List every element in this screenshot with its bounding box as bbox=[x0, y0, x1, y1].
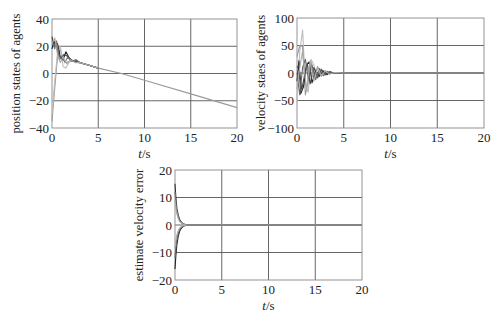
series-line-agent5 bbox=[52, 41, 98, 68]
velocity-states-plot: 05101520−100−50050100t/svelocity staes o… bbox=[254, 11, 491, 162]
position-states-plot: 05101520−40−2002040t/sposition states of… bbox=[9, 12, 244, 162]
x-tick-label: 20 bbox=[231, 130, 244, 145]
y-tick-label: 20 bbox=[36, 39, 49, 54]
x-tick-label: 5 bbox=[219, 282, 226, 297]
y-tick-label: 0 bbox=[166, 218, 173, 233]
y-axis-label: estimate velocity error bbox=[132, 168, 146, 281]
tick-labels: 05101520−20−1001020 bbox=[152, 163, 369, 298]
x-axis-label: t/s bbox=[138, 146, 150, 161]
estimate-velocity-error-plot: 05101520−20−1001020t/sestimate velocity … bbox=[132, 163, 369, 314]
y-tick-label: −100 bbox=[267, 121, 294, 136]
y-tick-label: 20 bbox=[159, 163, 172, 178]
y-tick-label: −50 bbox=[274, 93, 294, 108]
y-tick-label: 50 bbox=[281, 38, 294, 53]
y-axis-label: position states of agents bbox=[9, 13, 23, 133]
x-tick-label: 20 bbox=[356, 282, 369, 297]
x-tick-label: 5 bbox=[95, 130, 102, 145]
y-tick-label: −40 bbox=[29, 121, 49, 136]
y-axis-label: velocity staes of agents bbox=[254, 15, 268, 131]
y-tick-label: −20 bbox=[29, 93, 49, 108]
y-tick-label: 0 bbox=[43, 66, 50, 81]
x-tick-label: 0 bbox=[172, 282, 179, 297]
x-tick-label: 0 bbox=[49, 130, 56, 145]
x-tick-label: 15 bbox=[309, 282, 322, 297]
x-tick-label: 5 bbox=[341, 130, 348, 145]
grid-lines bbox=[52, 19, 237, 128]
y-tick-label: 0 bbox=[288, 66, 295, 81]
x-axis-label: t/s bbox=[262, 298, 274, 313]
x-tick-label: 10 bbox=[262, 282, 275, 297]
x-tick-label: 20 bbox=[478, 130, 491, 145]
y-tick-label: 10 bbox=[159, 190, 172, 205]
x-tick-label: 10 bbox=[138, 130, 151, 145]
x-tick-label: 15 bbox=[184, 130, 197, 145]
x-tick-label: 0 bbox=[294, 130, 301, 145]
figure-canvas: 05101520−40−2002040t/sposition states of… bbox=[0, 0, 503, 321]
y-tick-label: −20 bbox=[152, 273, 172, 288]
x-tick-label: 10 bbox=[384, 130, 397, 145]
x-tick-label: 15 bbox=[431, 130, 444, 145]
y-tick-label: −10 bbox=[152, 245, 172, 260]
x-axis-label: t/s bbox=[384, 146, 396, 161]
y-tick-label: 100 bbox=[275, 11, 295, 26]
y-tick-label: 40 bbox=[36, 12, 49, 27]
